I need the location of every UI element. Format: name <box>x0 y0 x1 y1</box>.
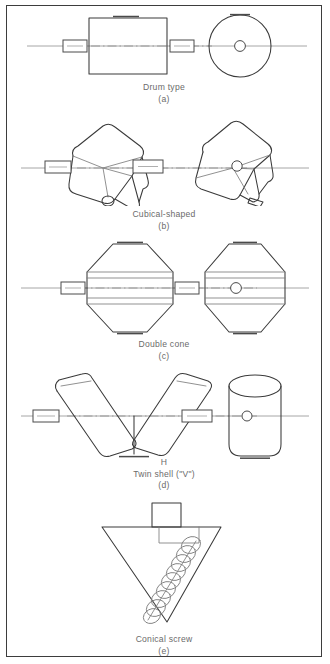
panel-e-title: Conical screw <box>136 634 193 644</box>
panel-e-caption: Conical screw (e) <box>7 634 321 657</box>
panel-c-drawing <box>7 234 323 339</box>
panel-a-label: (a) <box>7 94 321 106</box>
panel-a-caption: Drum type (a) <box>7 82 321 105</box>
panel-d-drawing <box>7 364 323 469</box>
figure-frame: Drum type (a) Cubical-shaped (b) <box>6 5 322 657</box>
panel-c-caption: Double cone (c) <box>7 339 321 362</box>
panel-b-drawing <box>7 106 323 206</box>
panel-c-label: (c) <box>7 351 321 363</box>
panel-b-label: (b) <box>7 221 321 233</box>
panel-e-label: (e) <box>7 646 321 658</box>
panel-d-title: Twin shell ("V") <box>7 469 321 481</box>
panel-b-caption: Cubical-shaped (b) <box>7 209 321 232</box>
panel-d-annotation: H <box>161 457 167 467</box>
panel-d-caption: H Twin shell ("V") (d) <box>7 457 321 492</box>
panel-e-drawing <box>7 498 323 628</box>
panel-a-title: Drum type <box>143 82 185 92</box>
panel-c-title: Double cone <box>138 339 189 349</box>
panel-b-title: Cubical-shaped <box>132 209 195 219</box>
panel-d-label: (d) <box>7 480 321 492</box>
